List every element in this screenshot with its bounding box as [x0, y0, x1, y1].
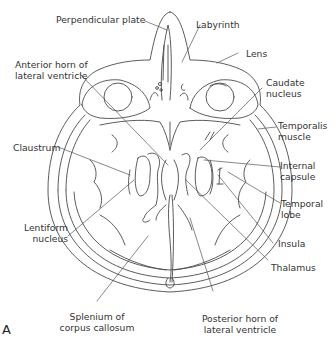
label-claustrum: Claustrum — [13, 142, 60, 153]
label-temporalis-muscle: Temporalis muscle — [278, 120, 327, 142]
right-globe — [206, 83, 234, 111]
right-lentiform — [195, 157, 212, 196]
gyri — [90, 160, 250, 270]
label-lens: Lens — [246, 48, 267, 59]
label-anterior-horn: Anterior horn of lateral ventricle — [15, 59, 88, 81]
label-splenium: Splenium of corpus callosum — [52, 311, 142, 333]
label-caudate-nucleus: Caudate nucleus — [266, 77, 305, 99]
right-basal-ganglia — [182, 153, 223, 196]
label-insula: Insula — [278, 238, 305, 249]
left-lentiform — [135, 156, 150, 196]
label-perpendicular-plate: Perpendicular plate — [56, 14, 145, 25]
label-labyrinth: Labyrinth — [196, 19, 240, 30]
left-globe — [104, 83, 132, 111]
label-internal-capsule: Internal capsule — [280, 160, 315, 182]
panel-letter: A — [2, 322, 11, 337]
left-basal-ganglia — [129, 153, 160, 222]
anatomy-diagram: Perpendicular plate Labyrinth Lens Anter… — [0, 0, 336, 341]
label-posterior-horn: Posterior horn of lateral ventricle — [190, 313, 290, 335]
label-thalamus: Thalamus — [271, 262, 316, 273]
frontal-lobes — [100, 120, 240, 152]
label-lentiform-nucleus: Lentiform nucleus — [16, 222, 68, 244]
label-temporal-lobe: Temporal lobe — [281, 198, 323, 220]
